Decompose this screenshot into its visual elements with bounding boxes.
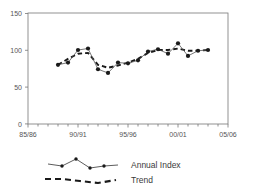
data-point-marker — [206, 48, 210, 52]
data-point-marker — [136, 58, 140, 62]
chart-legend: Annual Index Trend — [45, 157, 181, 185]
data-point-marker — [156, 47, 160, 51]
data-point-marker — [116, 60, 120, 64]
legend-marker — [102, 164, 105, 167]
data-point-marker — [126, 61, 130, 65]
data-point-marker — [66, 60, 70, 64]
y-tick-label-0: 0 — [18, 121, 22, 128]
y-tick-label-50: 50 — [14, 84, 22, 91]
x-axis-minor-ticks — [28, 124, 228, 128]
data-point-marker — [176, 41, 180, 45]
data-point-marker — [186, 54, 190, 58]
legend-trend-line — [45, 179, 116, 183]
data-point-marker — [146, 49, 150, 53]
legend-item-trend: Trend — [45, 175, 153, 185]
legend-label-annual-index: Annual Index — [131, 160, 181, 170]
data-point-marker — [166, 52, 170, 56]
data-point-marker — [96, 67, 100, 71]
data-point-marker — [76, 48, 80, 52]
legend-label-trend: Trend — [131, 175, 153, 185]
legend-marker — [74, 157, 77, 160]
legend-annual-index-line — [48, 159, 118, 168]
x-tick-label-9091: 90/91 — [69, 131, 87, 138]
x-tick-label-0001: 00/01 — [169, 131, 187, 138]
x-tick-label-8586: 85/86 — [19, 131, 37, 138]
y-tick-label-150: 150 — [10, 10, 22, 17]
data-point-marker — [86, 46, 90, 50]
plot-frame — [28, 13, 228, 124]
data-point-marker — [106, 71, 110, 75]
data-point-marker — [56, 63, 60, 67]
x-tick-label-0506: 05/06 — [219, 131, 237, 138]
data-point-marker — [196, 49, 200, 53]
legend-marker — [88, 166, 91, 169]
legend-item-annual-index: Annual Index — [48, 157, 181, 170]
y-axis: 150 100 50 0 — [10, 10, 28, 128]
line-chart: 150 100 50 0 — [0, 0, 260, 188]
plot-area-border — [28, 13, 228, 124]
y-tick-label-100: 100 — [10, 47, 22, 54]
chart-figure: 150 100 50 0 — [0, 0, 260, 188]
x-axis-labels: 85/86 90/91 95/96 00/01 05/06 — [19, 131, 237, 138]
legend-marker — [60, 164, 63, 167]
x-tick-label-9596: 95/96 — [119, 131, 137, 138]
